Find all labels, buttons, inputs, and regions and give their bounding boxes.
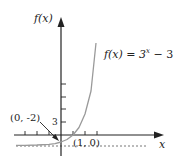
y-tick-label-3: 3 [52, 118, 58, 127]
y-axis-arrow-icon [58, 17, 65, 27]
point-label-y-intercept: (0, -2) [10, 113, 40, 123]
function-curve [16, 43, 96, 145]
y-axis-label: f(x) [34, 13, 53, 24]
function-label: f(x) = 3x − 3 [104, 48, 173, 60]
function-label-tail: − 3 [150, 48, 173, 61]
y-ticks [61, 84, 66, 122]
function-label-main: f(x) = 3 [104, 48, 146, 61]
x-axis-label: x [159, 139, 165, 150]
point-label-x-intercept: (1, 0) [73, 138, 100, 148]
